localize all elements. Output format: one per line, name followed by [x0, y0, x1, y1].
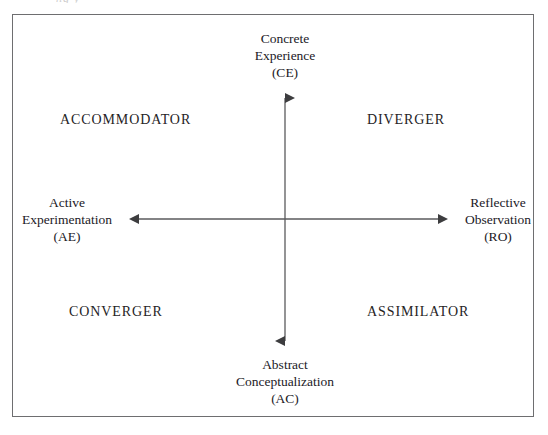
axis-label-ae-line3: (AE) [8, 228, 126, 245]
axis-label-ae-line1: Active [8, 194, 126, 211]
axis-label-active-experimentation: Active Experimentation (AE) [8, 194, 126, 245]
quadrant-label-assimilator: ASSIMILATOR [367, 303, 469, 321]
axis-label-ce-line3: (CE) [205, 64, 365, 81]
axis-label-ac-line1: Abstract [200, 356, 370, 373]
axis-label-ro-line3: (RO) [448, 228, 548, 245]
axis-label-ac-line2: Conceptualization [200, 373, 370, 390]
axis-label-concrete-experience: Concrete Experience (CE) [205, 30, 365, 81]
scan-artifact-text: ng y [56, 0, 176, 3]
axis-label-abstract-conceptualization: Abstract Conceptualization (AC) [200, 356, 370, 407]
quadrant-label-accommodator: ACCOMMODATOR [60, 111, 191, 129]
axis-label-ae-line2: Experimentation [8, 211, 126, 228]
quadrant-label-converger: CONVERGER [69, 303, 163, 321]
axis-label-ac-line3: (AC) [200, 390, 370, 407]
quadrant-label-diverger: DIVERGER [367, 111, 445, 129]
axis-label-ce-line2: Experience [205, 47, 365, 64]
axis-label-ro-line2: Observation [448, 211, 548, 228]
kolb-learning-styles-figure: ng y Concrete Experience (CE) Abstract [0, 0, 548, 435]
axis-label-ce-line1: Concrete [205, 30, 365, 47]
axis-label-reflective-observation: Reflective Observation (RO) [448, 194, 548, 245]
axis-label-ro-line1: Reflective [448, 194, 548, 211]
